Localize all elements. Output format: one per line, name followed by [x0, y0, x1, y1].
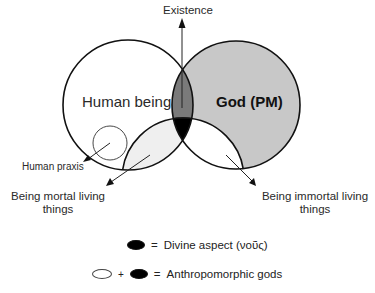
legend-anthropomorphic-gods: + = Anthropomorphic gods	[92, 268, 282, 280]
mortal-label: Being mortal living things	[8, 190, 108, 216]
mortal-arrowhead-icon	[106, 178, 114, 186]
equals-sign: =	[151, 239, 158, 251]
legend-divine-text: Divine aspect (νοῦς)	[164, 239, 268, 251]
legend-divine-aspect: = Divine aspect (νοῦς)	[127, 239, 268, 251]
praxis-arrow	[88, 143, 110, 159]
existence-arrowhead-icon	[179, 18, 186, 28]
immortal-label-line1: Being immortal living	[258, 190, 372, 203]
immortal-label: Being immortal living things	[258, 190, 372, 216]
black-ellipse-icon	[127, 240, 145, 250]
mortal-label-line1: Being mortal living	[8, 190, 108, 203]
plus-sign: +	[118, 269, 124, 280]
white-ellipse-icon	[92, 269, 112, 279]
equals-sign: =	[154, 268, 161, 280]
existence-label: Existence	[163, 4, 213, 16]
black-ellipse-icon	[130, 269, 148, 279]
human-being-label: Human being	[82, 93, 171, 110]
god-label: God (PM)	[216, 93, 283, 110]
immortal-label-line2: things	[258, 203, 372, 216]
human-praxis-label: Human praxis	[22, 161, 84, 172]
legend-anthropomorphic-text: Anthropomorphic gods	[167, 268, 283, 280]
mortal-label-line2: things	[8, 203, 108, 216]
